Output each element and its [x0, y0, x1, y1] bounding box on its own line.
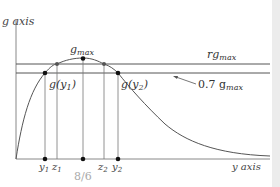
- arrow-head-icon: [173, 76, 178, 79]
- z2-point: [102, 62, 106, 66]
- tick-z1-label: z1: [51, 161, 62, 174]
- diagram-canvas: g axis gmax rgmax 0.7 gmax g(y1) g(y2) y…: [0, 0, 280, 187]
- x-axis-label: y axis: [231, 161, 261, 172]
- 0.7-gmax-label: 0.7 gmax: [198, 78, 243, 92]
- gy1-label: g(y1): [49, 78, 76, 92]
- gmax-label: gmax: [70, 43, 94, 57]
- arrow-line: [176, 77, 196, 84]
- gy2-label: g(y2): [121, 78, 148, 92]
- tick-y1-label: y1: [38, 161, 49, 174]
- tick-y2-label: y2: [111, 161, 123, 174]
- tick-z2-label: z2: [97, 161, 108, 174]
- z1-point: [55, 62, 59, 66]
- center-base-point: [81, 157, 86, 162]
- center-label: 8/6: [74, 170, 92, 183]
- gy1-point: [43, 71, 48, 76]
- gy2-point: [116, 71, 121, 76]
- r-gmax-label: rgmax: [207, 48, 237, 62]
- y-axis-label: g axis: [2, 15, 35, 28]
